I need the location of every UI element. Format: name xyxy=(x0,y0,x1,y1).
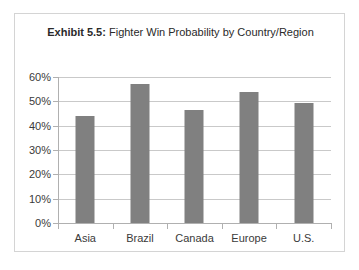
y-tick-label: 60% xyxy=(15,71,51,83)
x-tick-mark xyxy=(58,224,59,229)
x-tick-mark xyxy=(222,224,223,229)
y-tick-label: 50% xyxy=(15,95,51,107)
x-tick-label: Canada xyxy=(175,232,214,244)
bar xyxy=(76,116,95,223)
x-tick-mark xyxy=(167,224,168,229)
x-tick-label: Asia xyxy=(75,232,96,244)
x-axis-line xyxy=(58,223,332,224)
x-tick-mark xyxy=(331,224,332,229)
bar xyxy=(130,84,149,223)
x-tick-label: Europe xyxy=(231,232,266,244)
bar-group xyxy=(167,77,222,223)
bar xyxy=(294,103,313,223)
plot-area xyxy=(58,77,331,223)
bar xyxy=(240,92,259,223)
bar-group xyxy=(58,77,113,223)
x-tick-mark xyxy=(276,224,277,229)
y-tick-label: 30% xyxy=(15,144,51,156)
x-tick-mark xyxy=(113,224,114,229)
x-tick-label: U.S. xyxy=(293,232,314,244)
plot-wrapper: 0%10%20%30%40%50%60% AsiaBrazilCanadaEur… xyxy=(15,14,344,251)
x-axis-tick-labels: AsiaBrazilCanadaEuropeU.S. xyxy=(58,232,331,250)
y-tick-label: 10% xyxy=(15,193,51,205)
y-tick-label: 0% xyxy=(15,217,51,229)
y-tick-label: 40% xyxy=(15,120,51,132)
chart-figure: Exhibit 5.5: Fighter Win Probability by … xyxy=(14,13,345,252)
x-tick-label: Brazil xyxy=(126,232,154,244)
bar-group xyxy=(113,77,168,223)
bar-group xyxy=(222,77,277,223)
y-tick-label: 20% xyxy=(15,168,51,180)
bar xyxy=(185,110,204,223)
y-axis-tick-labels: 0%10%20%30%40%50%60% xyxy=(15,77,51,223)
bar-group xyxy=(276,77,331,223)
